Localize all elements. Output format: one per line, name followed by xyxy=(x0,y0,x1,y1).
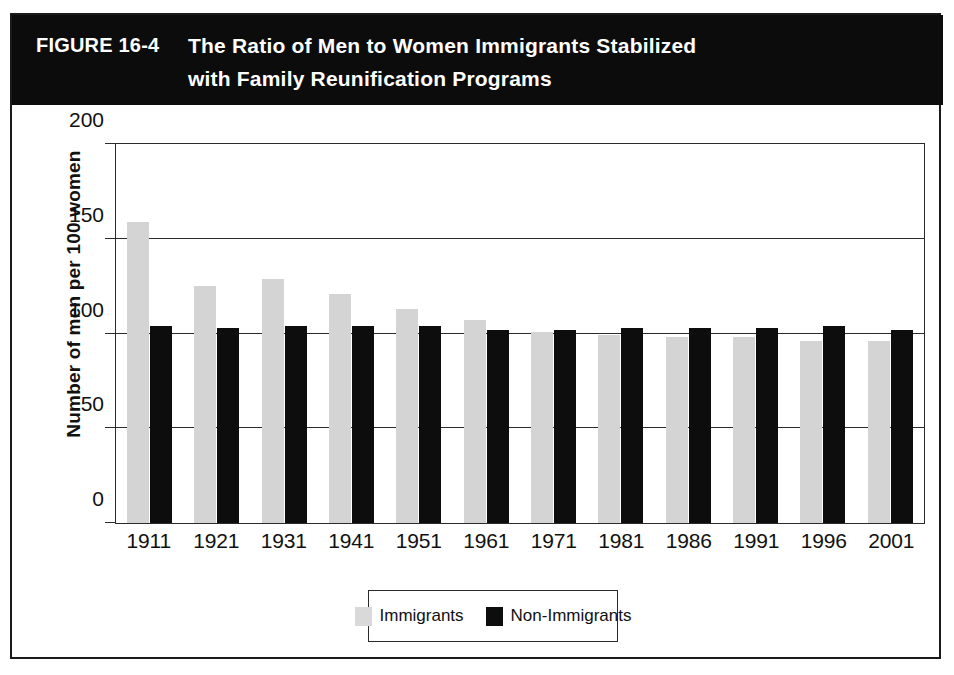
bar-immigrants-1931 xyxy=(262,279,284,523)
legend-entry-immigrants: Immigrants xyxy=(355,606,464,626)
x-tick-label-1971: 1971 xyxy=(520,529,588,553)
y-tick-label-100: 100 xyxy=(34,298,104,322)
bar-immigrants-1986 xyxy=(666,337,688,523)
figure-title-line-1: The Ratio of Men to Women Immigrants Sta… xyxy=(188,29,696,62)
x-tick-label-1951: 1951 xyxy=(385,529,453,553)
legend-entry-non-immigrants: Non-Immigrants xyxy=(486,606,632,626)
bar-group-1991 xyxy=(722,144,789,523)
bar-group-1961 xyxy=(453,144,520,523)
bar-non-immigrants-1911 xyxy=(150,326,172,523)
x-tick-label-1961: 1961 xyxy=(453,529,521,553)
plot-inner: 050100150200 xyxy=(116,144,924,523)
bar-group-1921 xyxy=(183,144,250,523)
bar-non-immigrants-1921 xyxy=(217,328,239,523)
bar-group-1941 xyxy=(318,144,385,523)
bar-group-1951 xyxy=(385,144,452,523)
bar-immigrants-1961 xyxy=(464,320,486,523)
bar-group-1911 xyxy=(116,144,183,523)
figure-title-text: The Ratio of Men to Women Immigrants Sta… xyxy=(188,29,696,95)
bar-non-immigrants-1951 xyxy=(419,326,441,523)
figure-title-inner: FIGURE 16-4 The Ratio of Men to Women Im… xyxy=(36,29,929,95)
x-tick-label-1921: 1921 xyxy=(183,529,251,553)
figure-container: FIGURE 16-4 The Ratio of Men to Women Im… xyxy=(10,13,941,659)
legend-label-immigrants: Immigrants xyxy=(380,606,464,626)
figure-number-label: FIGURE 16-4 xyxy=(36,29,188,61)
bar-immigrants-1911 xyxy=(127,222,149,523)
x-tick-label-1986: 1986 xyxy=(655,529,723,553)
chart-legend: ImmigrantsNon-Immigrants xyxy=(368,590,618,642)
figure-title-band: FIGURE 16-4 The Ratio of Men to Women Im… xyxy=(12,15,943,105)
x-tick-label-1911: 1911 xyxy=(115,529,183,553)
bar-non-immigrants-1971 xyxy=(554,330,576,523)
bar-immigrants-1971 xyxy=(531,332,553,523)
bar-immigrants-2001 xyxy=(868,341,890,523)
y-tick-mark-200 xyxy=(105,143,116,144)
bar-non-immigrants-1996 xyxy=(823,326,845,523)
bar-immigrants-1991 xyxy=(733,337,755,523)
figure-title-line-2: with Family Reunification Programs xyxy=(188,62,696,95)
light-gray-swatch xyxy=(355,607,372,626)
black-swatch xyxy=(486,607,503,626)
x-tick-label-1991: 1991 xyxy=(723,529,791,553)
chart-region: Number of men per 100 women 050100150200… xyxy=(12,105,939,657)
y-tick-label-150: 150 xyxy=(34,203,104,227)
bar-immigrants-1921 xyxy=(194,286,216,523)
bar-non-immigrants-1981 xyxy=(621,328,643,523)
bar-non-immigrants-1991 xyxy=(756,328,778,523)
legend-label-non-immigrants: Non-Immigrants xyxy=(511,606,632,626)
bar-non-immigrants-1986 xyxy=(689,328,711,523)
plot-area: 050100150200 xyxy=(115,143,925,524)
bar-group-2001 xyxy=(857,144,924,523)
y-tick-mark-0 xyxy=(105,522,116,523)
bar-non-immigrants-2001 xyxy=(891,330,913,523)
bar-group-1971 xyxy=(520,144,587,523)
y-tick-label-50: 50 xyxy=(34,392,104,416)
bar-immigrants-1951 xyxy=(396,309,418,523)
x-tick-label-1931: 1931 xyxy=(250,529,318,553)
bar-non-immigrants-1961 xyxy=(487,330,509,523)
bar-non-immigrants-1931 xyxy=(285,326,307,523)
bar-immigrants-1981 xyxy=(598,335,620,523)
y-tick-mark-100 xyxy=(105,333,116,334)
y-tick-mark-150 xyxy=(105,238,116,239)
bar-immigrants-1941 xyxy=(329,294,351,523)
y-tick-label-0: 0 xyxy=(34,487,104,511)
figure-title-row: FIGURE 16-4 The Ratio of Men to Women Im… xyxy=(36,29,929,95)
bar-immigrants-1996 xyxy=(800,341,822,523)
bar-group-1986 xyxy=(655,144,722,523)
x-tick-label-1981: 1981 xyxy=(588,529,656,553)
x-tick-label-2001: 2001 xyxy=(858,529,926,553)
x-tick-label-1941: 1941 xyxy=(318,529,386,553)
bar-group-1981 xyxy=(587,144,654,523)
bar-group-1996 xyxy=(789,144,856,523)
bar-group-1931 xyxy=(251,144,318,523)
y-tick-mark-50 xyxy=(105,427,116,428)
bar-non-immigrants-1941 xyxy=(352,326,374,523)
y-tick-label-200: 200 xyxy=(34,108,104,132)
x-axis-labels: 1911192119311941195119611971198119861991… xyxy=(115,529,925,553)
bars-layer xyxy=(116,144,924,523)
x-tick-label-1996: 1996 xyxy=(790,529,858,553)
